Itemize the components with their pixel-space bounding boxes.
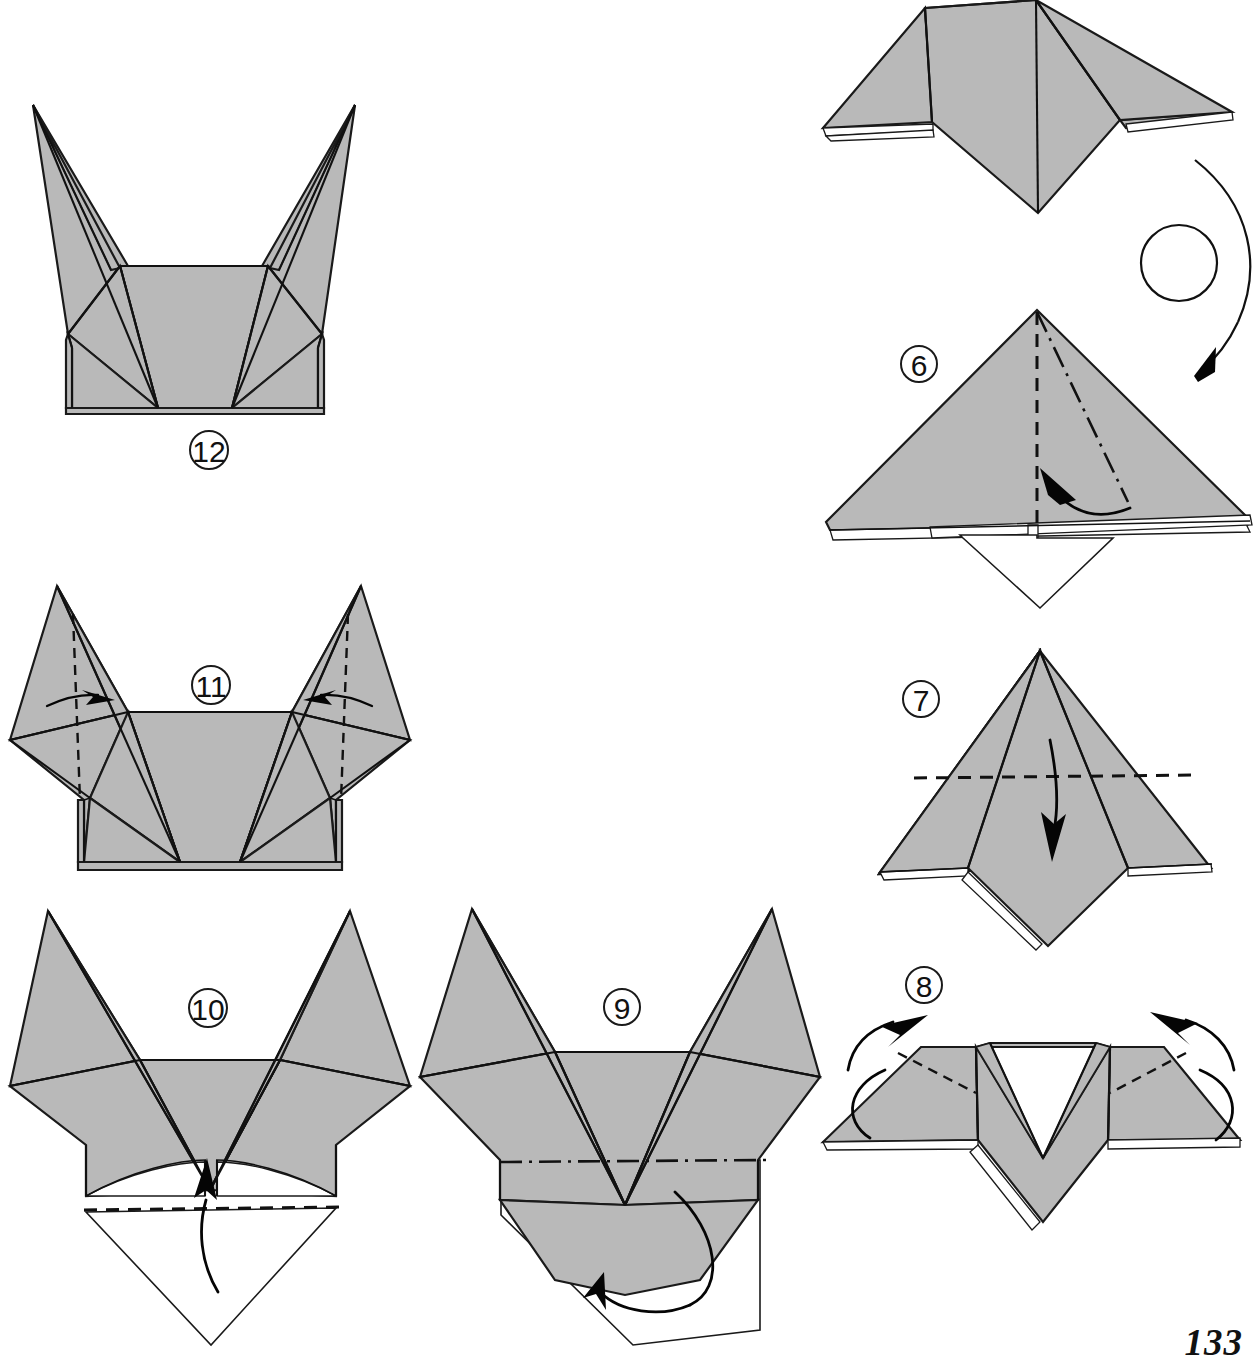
paper-facet — [66, 408, 324, 414]
step-badge-8: 8 — [906, 967, 942, 1003]
figure-step-12: 12 — [33, 105, 355, 469]
paper-facet — [823, 8, 933, 128]
paper-facet — [336, 800, 342, 862]
turn-over-arrow — [1141, 160, 1250, 382]
paper-facet — [280, 911, 410, 1086]
figure-step-6: 6 — [826, 310, 1252, 608]
figure-step-5-result — [823, 0, 1233, 213]
step-badge-label: 12 — [192, 435, 225, 468]
paper-facet — [823, 1047, 978, 1142]
step-badge-label: 7 — [913, 684, 930, 717]
figure-step-7: 7 — [879, 651, 1212, 950]
step-badge-6: 6 — [901, 346, 937, 382]
turn-over-arc-upper — [1195, 160, 1250, 322]
figure-step-10: 10 — [10, 911, 410, 1345]
arrow-shaft — [848, 1022, 893, 1070]
paper-facet — [976, 1043, 1110, 1047]
step-badge-9: 9 — [604, 989, 640, 1025]
step-badge-11: 11 — [192, 666, 230, 704]
arrow-head — [1194, 347, 1216, 382]
paper-facet — [10, 911, 140, 1086]
step-badge-10: 10 — [189, 989, 227, 1027]
page-number: 133 — [1185, 1324, 1244, 1361]
paper-facet — [1108, 1047, 1240, 1140]
step-badge-label: 8 — [916, 970, 933, 1003]
arrow-head — [1150, 1012, 1198, 1045]
paper-facet — [78, 862, 342, 870]
arrow-shaft — [1186, 1020, 1234, 1070]
step-badge-label: 9 — [614, 992, 631, 1025]
arrow-head — [880, 1015, 928, 1047]
figure-step-9: 9 — [420, 909, 820, 1345]
paper-back-diamond — [960, 535, 1113, 608]
turn-over-loop-circle — [1141, 225, 1217, 301]
paper-back-facet — [1108, 1138, 1240, 1149]
step-badge-label: 6 — [911, 349, 928, 382]
step-badge-12: 12 — [190, 431, 228, 469]
diagram-canvas: 6 — [0, 0, 1257, 1369]
step-badge-7: 7 — [903, 681, 939, 717]
step-badge-label: 11 — [195, 670, 226, 703]
step-badge-label: 10 — [191, 993, 224, 1026]
paper-facet — [78, 800, 84, 862]
origami-instruction-page: 6 — [0, 0, 1257, 1369]
paper-facet — [690, 909, 820, 1077]
figure-step-8: 8 — [823, 967, 1240, 1230]
paper-back-facet — [823, 1140, 978, 1150]
figure-step-11: 11 — [10, 586, 410, 870]
